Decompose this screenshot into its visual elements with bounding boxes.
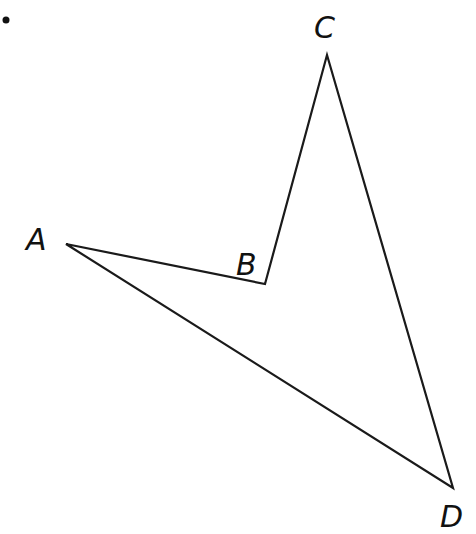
vertex-label-d: D: [440, 499, 463, 534]
quadrilateral-figure: A B C D: [0, 0, 476, 534]
problem-number-dot: [3, 17, 10, 24]
vertex-label-c: C: [314, 10, 335, 45]
quadrilateral-abcd: [66, 55, 453, 488]
vertex-label-b: B: [236, 247, 257, 282]
vertex-label-a: A: [24, 222, 47, 257]
